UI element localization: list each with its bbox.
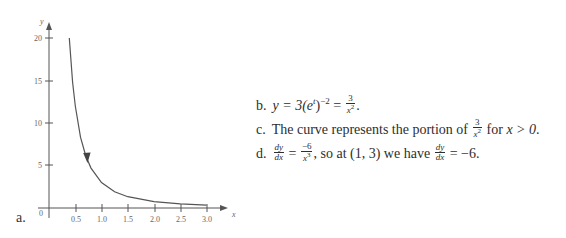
fraction-3-over-x2: 3x2: [346, 94, 356, 115]
exponent: −2: [320, 96, 330, 106]
x-axis-name: x: [231, 210, 236, 219]
x-tick-label: 3.0: [202, 215, 212, 224]
period: .: [356, 98, 360, 113]
denominator: x2: [473, 128, 483, 139]
fraction-neg6-over-x3: −6x3: [301, 142, 313, 163]
answer-d-result: = −6.: [446, 146, 479, 161]
answer-b-expr: y = 3(e: [273, 98, 314, 113]
den-exp: 2: [478, 127, 482, 135]
answer-d-label: d.: [256, 146, 267, 161]
fraction-dy-dx: dydx: [274, 143, 285, 162]
y-axis-arrow-icon: [46, 22, 52, 30]
period: .: [536, 122, 540, 137]
x-tick-label: 2.0: [150, 215, 160, 224]
denominator: x3: [301, 152, 313, 163]
answer-c-text: for: [483, 122, 506, 137]
axes: [38, 28, 222, 218]
x-tick-labels: 0.5 1.0 1.5 2.0 2.5 3.0: [71, 215, 212, 224]
y-tick-label: 20: [34, 34, 42, 43]
y-tick-labels: 20 15 10 5: [34, 34, 42, 170]
equals: =: [285, 146, 300, 161]
equals: =: [330, 98, 345, 113]
curve-3-over-x-squared: [69, 38, 206, 205]
part-a-label: a.: [16, 210, 26, 226]
curve-direction-arrow-icon: [83, 152, 90, 163]
answer-c: c.The curve represents the portion of 3x…: [256, 120, 540, 141]
x-tick-label: 1.5: [123, 215, 133, 224]
answer-b: b.y = 3(et)−2 = 3x2.: [256, 96, 360, 117]
y-tick-label: 5: [38, 161, 42, 170]
denominator: x2: [346, 104, 356, 115]
graph-figure: 0.5 1.0 1.5 2.0 2.5 3.0 20 15 10 5 0 x y: [0, 0, 240, 238]
fraction-dy-dx: dydx: [435, 143, 446, 162]
origin-label: 0: [39, 209, 43, 218]
denominator: dx: [274, 153, 285, 162]
den-exp: 3: [307, 151, 311, 159]
answer-d-text: , so at (1, 3) we have: [313, 146, 433, 161]
y-tick-label: 10: [34, 119, 42, 128]
x-tick-label: 0.5: [71, 215, 81, 224]
condition: x > 0: [506, 122, 536, 137]
fraction-3-over-x2: 3x2: [473, 118, 483, 139]
answer-c-text: The curve represents the portion of: [272, 122, 472, 137]
den-exp: 2: [351, 103, 355, 111]
x-tick-label: 1.0: [97, 215, 107, 224]
y-tick-label: 15: [34, 77, 42, 86]
answer-c-label: c.: [256, 122, 266, 137]
denominator: dx: [435, 153, 446, 162]
x-axis-arrow-icon: [220, 205, 228, 211]
answer-b-label: b.: [256, 98, 267, 113]
answer-d: d.dydx = −6x3, so at (1, 3) we have dydx…: [256, 144, 479, 165]
x-tick-label: 2.5: [176, 215, 186, 224]
y-axis-name: y: [39, 17, 44, 26]
